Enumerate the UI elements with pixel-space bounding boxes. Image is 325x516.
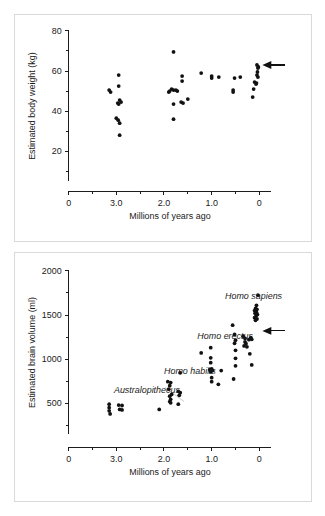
data-point [210, 380, 214, 384]
data-point [209, 346, 213, 350]
data-point [245, 345, 249, 349]
data-point [256, 75, 260, 79]
x-tick-label: 3.0 [110, 198, 122, 208]
data-point [118, 133, 122, 137]
data-point [233, 341, 237, 345]
data-point [169, 401, 173, 405]
data-point [117, 102, 121, 106]
data-point [248, 352, 252, 356]
data-point [219, 369, 223, 373]
data-point [210, 376, 214, 380]
x-tick-label: 0 [257, 198, 262, 208]
evolution-figure: 2040608003.02.01.00Millions of years ago… [0, 0, 325, 516]
species-label: Homo erectus [197, 331, 253, 341]
data-point [231, 90, 235, 94]
panel-body-weight: 2040608003.02.01.00Millions of years ago… [14, 14, 312, 242]
data-point [252, 87, 256, 91]
panel-brain-volume: 50010001500200003.02.01.00Millions of ye… [14, 252, 312, 502]
y-tick-label: 2000 [42, 266, 62, 276]
y-tick-label: 60 [52, 66, 62, 76]
data-point [109, 90, 113, 94]
species-label: Australopithecus [113, 385, 181, 395]
data-point [180, 74, 184, 78]
species-label: Homo habilis [164, 366, 216, 376]
annotation-arrow-head [262, 61, 271, 69]
x-tick-label: 1.0 [205, 198, 217, 208]
y-tick-label: 20 [52, 146, 62, 156]
x-tick-label: 0 [66, 454, 71, 464]
data-point [120, 404, 124, 408]
data-point [216, 382, 220, 386]
data-point [180, 79, 184, 83]
data-point [234, 364, 238, 368]
y-tick-label: 80 [52, 26, 62, 36]
species-label: Homo sapiens [225, 291, 283, 301]
data-point [181, 101, 185, 105]
data-point [117, 73, 121, 77]
data-point [199, 71, 203, 75]
data-point [108, 412, 112, 416]
data-point [117, 403, 121, 407]
data-point [157, 408, 161, 412]
data-point [120, 408, 124, 412]
data-point [233, 76, 237, 80]
brain-volume-scatter-plot: 50010001500200003.02.01.00Millions of ye… [15, 253, 311, 501]
data-point [117, 84, 121, 88]
data-point [199, 351, 203, 355]
data-point [234, 356, 238, 360]
data-point [209, 361, 213, 365]
x-tick-label: 2.0 [158, 198, 170, 208]
x-tick-label: 0 [257, 454, 262, 464]
y-axis-title: Estimated brain volume (ml) [27, 297, 37, 408]
x-tick-label: 1.0 [205, 454, 217, 464]
data-point [107, 402, 111, 406]
data-point [232, 377, 236, 381]
data-point [118, 121, 122, 125]
data-point [234, 348, 238, 352]
data-point [176, 402, 180, 406]
y-axis-title: Estimated body weight (kg) [27, 52, 37, 160]
data-point [167, 90, 171, 94]
data-point [254, 82, 258, 86]
data-point [251, 95, 255, 99]
x-tick-label: 2.0 [158, 454, 170, 464]
y-tick-label: 500 [47, 398, 62, 408]
data-point [186, 97, 190, 101]
data-point [209, 356, 213, 360]
annotation-arrow-head [262, 327, 271, 335]
data-point [172, 50, 176, 54]
data-point [250, 363, 254, 367]
x-axis-title: Millions of years ago [129, 211, 210, 221]
data-point [172, 102, 176, 106]
data-point [210, 76, 214, 80]
data-point [217, 75, 221, 79]
y-tick-label: 1500 [42, 310, 62, 320]
data-point [231, 323, 235, 327]
x-tick-label: 0 [66, 198, 71, 208]
data-point [175, 89, 179, 93]
y-tick-label: 1000 [42, 354, 62, 364]
data-point [172, 117, 176, 121]
y-tick-label: 40 [52, 106, 62, 116]
body-weight-scatter-plot: 2040608003.02.01.00Millions of years ago… [15, 15, 311, 241]
x-tick-label: 3.0 [110, 454, 122, 464]
data-point [254, 318, 258, 322]
data-point [238, 75, 242, 79]
data-point [256, 66, 260, 70]
x-axis-title: Millions of years ago [129, 467, 210, 477]
